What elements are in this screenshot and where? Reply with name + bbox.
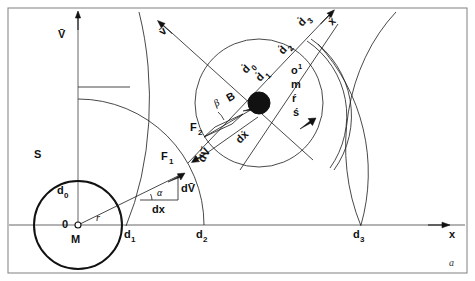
label-d2-subscript: 2: [203, 235, 208, 244]
f1-arrowhead: [168, 173, 185, 182]
particle-property-stack: o 1 m ŕ ś: [291, 62, 302, 118]
physics-diagram-svg: V̄ x x́ v̄ S M 0 r d 0 d 1 d 2: [0, 0, 475, 281]
x-axis-arrowhead: [428, 222, 450, 228]
label-f1-base: F: [161, 150, 168, 162]
d2-prime-ray-arrowhead: [300, 118, 316, 129]
arc-d3-inner: [318, 44, 368, 225]
stack-line-3: ŕ: [292, 92, 297, 104]
label-d3-prime: d́ 3: [294, 10, 315, 31]
x-prime-axis-line: [188, 14, 330, 163]
origin-zero-label: 0: [62, 218, 68, 230]
radius-r-label: r: [96, 212, 100, 223]
label-d1-subscript: 1: [131, 235, 136, 244]
stack-line-2: m: [291, 78, 301, 90]
label-d2-prime: d́ 2: [275, 38, 296, 59]
center-m-label: M: [71, 233, 80, 245]
origin-marker: [75, 222, 81, 228]
label-d0-prime-base: d́: [238, 62, 252, 76]
label-d2-base: d: [196, 228, 203, 240]
particle-m-dot: [248, 92, 270, 114]
label-d1: d 1: [124, 228, 136, 244]
label-d0-subscript: 0: [64, 191, 69, 200]
label-alpha-angle: α: [157, 187, 163, 198]
stack-line-1-superscript: 1: [298, 62, 302, 71]
label-dx: dx: [152, 203, 166, 215]
arc-d3-prime-a: [307, 41, 347, 168]
arc-d3-outer: [346, 12, 396, 226]
label-beta-angle: β: [211, 97, 222, 110]
label-f1-subscript: 1: [169, 157, 174, 166]
label-f1: F 1: [161, 150, 174, 166]
label-d1-base: d: [124, 228, 131, 240]
beta-angle-arc: [218, 112, 224, 120]
label-d0-base: d: [57, 184, 64, 196]
figure-corner-label: a: [449, 257, 454, 268]
label-dx-prime: dx́: [233, 127, 251, 145]
arc-d2: [78, 99, 204, 225]
label-d3-subscript: 3: [360, 235, 365, 244]
stack-line-4: ś: [293, 106, 299, 118]
v-axis-label: V̄: [58, 28, 66, 40]
v-axis-arrowhead: [75, 11, 80, 30]
label-d3-prime-base: d́: [294, 15, 308, 29]
stack-line-1: o: [291, 64, 298, 76]
sphere-s-label: S: [34, 148, 41, 160]
label-dv-bar: dV̄: [181, 182, 196, 194]
x-axis-label: x: [449, 228, 456, 240]
label-d3: d 3: [353, 228, 365, 244]
label-f2-base: F: [190, 121, 197, 133]
label-d0: d 0: [57, 184, 69, 200]
alpha-angle-arc: [151, 194, 153, 200]
label-d3-base: d: [353, 228, 360, 240]
label-f2: F 2: [190, 121, 203, 137]
label-f2-subscript: 2: [198, 128, 203, 137]
label-d2: d 2: [196, 228, 208, 244]
figure-container: V̄ x x́ v̄ S M 0 r d 0 d 1 d 2: [0, 0, 475, 281]
label-b-vector: B: [224, 89, 237, 103]
